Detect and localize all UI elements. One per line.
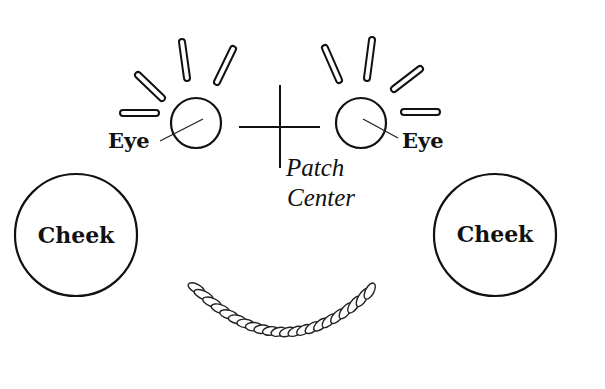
right-eye-pointer-line [363, 119, 398, 138]
face-patch-diagram: Eye Eye Patch Center Cheek Cheek [0, 0, 605, 389]
ray-icon [401, 109, 440, 115]
patch-center-label-line1: Patch [285, 154, 344, 181]
ray-icon [179, 39, 191, 82]
left-cheek-label: Cheek [38, 222, 115, 248]
ray-icon [213, 45, 237, 86]
left-eye-label: Eye [108, 128, 150, 153]
right-eye-rays [321, 37, 440, 115]
right-eye-label: Eye [402, 128, 444, 153]
smile-rope [186, 280, 377, 338]
left-eye-pointer-line [160, 119, 203, 141]
ray-icon [364, 37, 376, 82]
ray-icon [120, 110, 159, 116]
ray-icon [134, 71, 166, 102]
patch-center-label-line2: Center [287, 184, 355, 211]
ray-icon [321, 44, 343, 84]
right-cheek-label: Cheek [457, 221, 534, 247]
ray-icon [390, 65, 424, 93]
right-eye-circle [336, 98, 386, 148]
